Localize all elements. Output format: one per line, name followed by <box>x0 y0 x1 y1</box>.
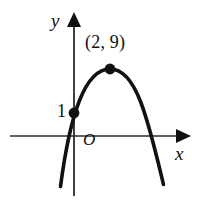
y-intercept-value-label: 1 <box>57 102 66 120</box>
origin-label: O <box>83 131 95 148</box>
parabola-figure: y x O (2, 9) 1 <box>0 0 205 208</box>
y-intercept-point-marker <box>69 108 80 119</box>
y-axis-arrowhead-icon <box>67 12 81 27</box>
x-axis-label: x <box>175 144 183 163</box>
vertex-point-marker <box>105 64 116 75</box>
parabola-curve <box>61 69 164 187</box>
vertex-coordinate-label: (2, 9) <box>85 33 125 51</box>
y-axis-label: y <box>51 11 59 30</box>
x-axis-arrowhead-icon <box>176 129 191 143</box>
